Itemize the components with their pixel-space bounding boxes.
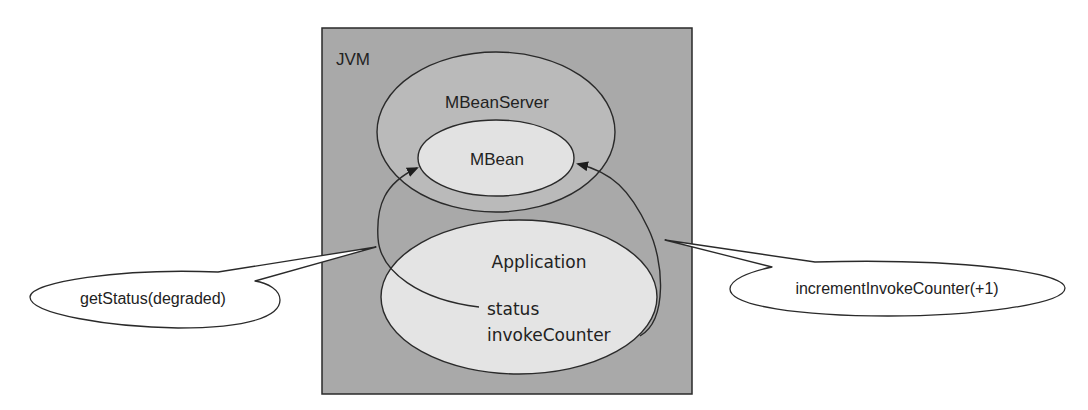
mbean-label: MBean bbox=[470, 150, 524, 169]
application-label: Application bbox=[492, 252, 587, 272]
jvm-label: JVM bbox=[336, 50, 370, 69]
jmx-diagram: JVM MBeanServer MBean Application status… bbox=[0, 0, 1088, 410]
field-invoke-counter: invokeCounter bbox=[487, 325, 611, 345]
mbeanserver-label: MBeanServer bbox=[445, 93, 549, 112]
field-status: status bbox=[487, 299, 539, 319]
callout-increment-invoke-counter: incrementInvokeCounter(+1) bbox=[665, 240, 1065, 316]
application-ellipse bbox=[381, 220, 657, 374]
callout-get-status-label: getStatus(degraded) bbox=[80, 290, 226, 307]
callout-increment-label: incrementInvokeCounter(+1) bbox=[795, 280, 998, 297]
